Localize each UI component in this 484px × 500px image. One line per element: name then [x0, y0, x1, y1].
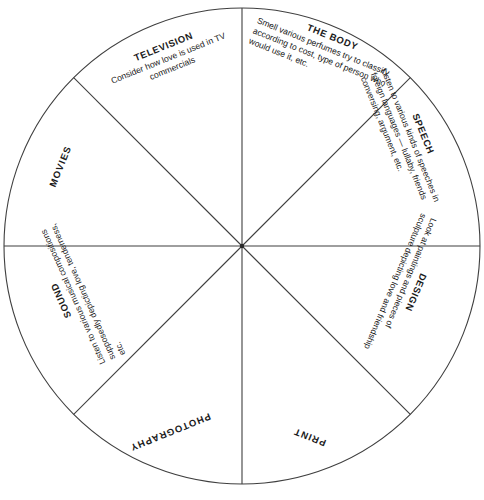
wheel-center-hub [240, 244, 244, 248]
media-wheel-diagram: TELEVISION Consider how love is used in … [0, 0, 484, 500]
